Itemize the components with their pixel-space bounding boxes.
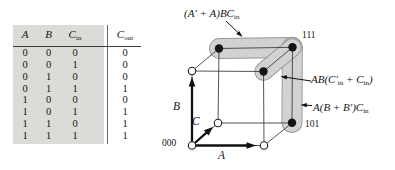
vertex-101-filled: [288, 119, 296, 127]
axis-label-c: C: [192, 115, 200, 127]
axis-label-b: B: [173, 100, 180, 112]
group-label-ACin: A(B + B′)Cin: [313, 101, 369, 113]
g3-main: A(B + B′)C: [313, 101, 363, 113]
figure: A B Cin Cout 0 0 0 0 0 0 1 0 0 1 0 0 0 1…: [0, 0, 395, 170]
vertex-000-open: [188, 142, 195, 149]
g1-main: (A′ + A)BC: [184, 7, 234, 19]
vertex-110-filled: [259, 67, 267, 75]
axis-label-a: A: [218, 149, 225, 161]
cube-diagram: [0, 0, 395, 170]
pointer-arrow-g1: [226, 21, 243, 37]
vertex-010-open: [188, 67, 195, 74]
g3-sub: in: [363, 107, 368, 115]
g2-part3: ): [369, 73, 373, 85]
g1-sub: in: [234, 13, 239, 21]
g2-part1: AB(C′: [311, 73, 338, 85]
a-axis-arrow: [192, 142, 256, 149]
group-label-AB: AB(C′in + Cin): [311, 73, 373, 85]
vertex-011-filled: [215, 44, 223, 52]
g2-part2: + C: [343, 73, 363, 85]
vertex-111-filled: [288, 43, 296, 51]
vertex-100-open: [260, 142, 267, 149]
axis-arrows: [189, 77, 256, 149]
vertex-label-000: 000: [162, 138, 176, 148]
group-label-BCin: (A′ + A)BCin: [184, 7, 239, 19]
b-axis-arrow: [189, 77, 196, 146]
vertex-label-101: 101: [305, 119, 319, 129]
vertex-label-111: 111: [302, 30, 316, 40]
vertex-001-open: [214, 119, 221, 126]
